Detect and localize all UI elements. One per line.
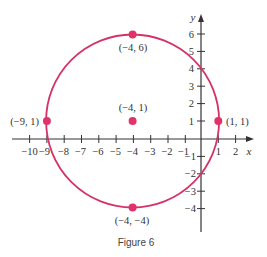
y-axis-arrow-icon (198, 14, 204, 22)
y-tick-label: 6 (189, 29, 194, 40)
y-tick-label: −4 (185, 203, 197, 214)
x-tick-label: −7 (75, 146, 86, 157)
y-axis-label: y (190, 11, 196, 23)
x-tick-label: 2 (233, 146, 238, 157)
x-tick-label: −3 (144, 146, 155, 157)
y-tick-label: −3 (185, 186, 196, 197)
x-tick-label: −10 (21, 146, 37, 157)
y-tick-label: 3 (189, 81, 194, 92)
point-label-right: (1, 1) (226, 116, 249, 128)
x-tick-label: 1 (216, 146, 221, 157)
point-label-left: (−9, 1) (10, 116, 39, 128)
x-tick-label: −5 (110, 146, 121, 157)
point-bottom (129, 204, 137, 212)
x-axis-label: x (246, 145, 252, 157)
figure-caption: Figure 6 (118, 237, 155, 248)
coordinate-plane: −10 −9 −8 −7 −6 −5 −4 −3 −2 −1 1 2 x 1 2… (0, 0, 267, 257)
x-tick-label: −6 (92, 146, 103, 157)
point-label-top: (−4, 6) (119, 42, 148, 54)
y-tick-label: −2 (185, 168, 196, 179)
x-axis-arrow-icon (246, 136, 254, 142)
y-tick-label: 1 (189, 116, 194, 127)
y-tick-label: 2 (189, 98, 194, 109)
point-center (129, 117, 137, 125)
x-tick-label: −2 (161, 146, 172, 157)
x-tick-label: −4 (127, 146, 139, 157)
point-label-bottom: (−4, −4) (115, 215, 150, 227)
x-tick-label: −8 (58, 146, 69, 157)
point-top (129, 31, 137, 39)
y-tick-label: 4 (189, 63, 195, 74)
x-tick-label: −9 (39, 146, 50, 157)
point-right (214, 117, 222, 125)
point-label-center: (−4, 1) (119, 102, 148, 114)
y-tick-label: −1 (185, 151, 196, 162)
point-left (43, 117, 51, 125)
